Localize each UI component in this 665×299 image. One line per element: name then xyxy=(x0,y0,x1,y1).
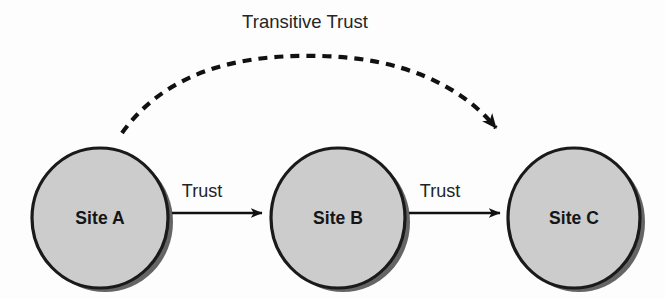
edge-label-trust-b-c: Trust xyxy=(420,181,460,201)
diagram-canvas: Site A Site B Site C Trust Trust Transit… xyxy=(0,0,665,299)
node-label-site-a: Site A xyxy=(75,208,125,228)
transitive-trust-diagram: Site A Site B Site C Trust Trust Transit… xyxy=(0,0,665,299)
edge-label-trust-a-b: Trust xyxy=(182,181,222,201)
node-label-site-b: Site B xyxy=(313,208,363,228)
edge-arc-transitive-trust xyxy=(122,56,496,133)
node-site-b[interactable]: Site B xyxy=(271,148,410,292)
node-site-a[interactable]: Site A xyxy=(32,148,173,292)
node-site-c[interactable]: Site C xyxy=(508,148,645,292)
node-label-site-c: Site C xyxy=(549,208,599,228)
edge-transitive-trust-a-c[interactable]: Transitive Trust xyxy=(122,11,496,133)
edge-trust-a-b[interactable]: Trust xyxy=(172,181,262,213)
edge-trust-b-c[interactable]: Trust xyxy=(409,181,500,213)
edge-label-transitive-trust: Transitive Trust xyxy=(242,11,368,32)
